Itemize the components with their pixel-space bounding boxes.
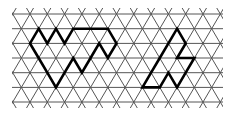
grid-diagonal-down-right (233, 6, 235, 110)
triangular-grid-figure (0, 0, 235, 116)
triangular-grid (0, 6, 235, 110)
grid-diagonal-down-left (233, 6, 235, 110)
